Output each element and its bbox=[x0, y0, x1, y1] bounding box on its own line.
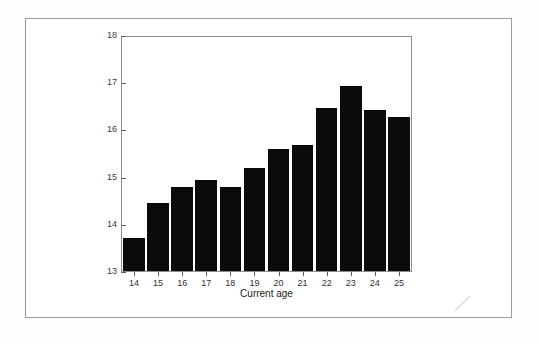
x-tick-mark bbox=[158, 272, 159, 276]
y-tick-label: 15 bbox=[107, 172, 117, 183]
bar-slot bbox=[170, 37, 194, 271]
bar-slot bbox=[218, 37, 242, 271]
y-tick-mark bbox=[121, 272, 126, 273]
bar-slot bbox=[194, 37, 218, 271]
y-axis-title-holder: Mean age plan started bbox=[72, 36, 92, 272]
bar bbox=[292, 145, 314, 271]
bar bbox=[268, 149, 290, 271]
bar-series bbox=[122, 37, 411, 271]
bar bbox=[123, 238, 145, 271]
x-tick-mark bbox=[399, 272, 400, 276]
bar-slot bbox=[146, 37, 170, 271]
x-tick-mark bbox=[134, 272, 135, 276]
bar-slot bbox=[122, 37, 146, 271]
bar bbox=[195, 180, 217, 271]
bar bbox=[340, 86, 362, 271]
x-tick-mark bbox=[327, 272, 328, 276]
x-tick-mark bbox=[303, 272, 304, 276]
y-tick-label: 18 bbox=[107, 30, 117, 41]
y-tick: 13 bbox=[121, 272, 127, 273]
bar bbox=[220, 187, 242, 271]
y-tick-label: 17 bbox=[107, 77, 117, 88]
bar bbox=[147, 203, 169, 271]
x-tick-mark bbox=[375, 272, 376, 276]
x-tick-mark bbox=[230, 272, 231, 276]
bar-slot bbox=[387, 37, 411, 271]
bar-chart: 131415161718 141516171819202122232425 bbox=[121, 36, 412, 272]
bar-slot bbox=[291, 37, 315, 271]
bar-slot bbox=[266, 37, 290, 271]
bar bbox=[244, 168, 266, 271]
x-tick-mark bbox=[351, 272, 352, 276]
x-tick-mark bbox=[279, 272, 280, 276]
bar-slot bbox=[315, 37, 339, 271]
x-tick-mark bbox=[206, 272, 207, 276]
y-tick-label: 14 bbox=[107, 219, 117, 230]
bar-slot bbox=[363, 37, 387, 271]
y-tick-label: 13 bbox=[107, 266, 117, 277]
bar-slot bbox=[242, 37, 266, 271]
bar bbox=[316, 108, 338, 271]
x-tick-mark bbox=[182, 272, 183, 276]
x-tick-mark bbox=[254, 272, 255, 276]
x-axis-title: Current age bbox=[121, 288, 412, 299]
y-tick-label: 16 bbox=[107, 124, 117, 135]
scanned-page: Mean age plan started 131415161718 14151… bbox=[0, 0, 539, 343]
bar bbox=[388, 117, 410, 271]
bar bbox=[171, 187, 193, 271]
bar-slot bbox=[339, 37, 363, 271]
bar bbox=[364, 110, 386, 271]
